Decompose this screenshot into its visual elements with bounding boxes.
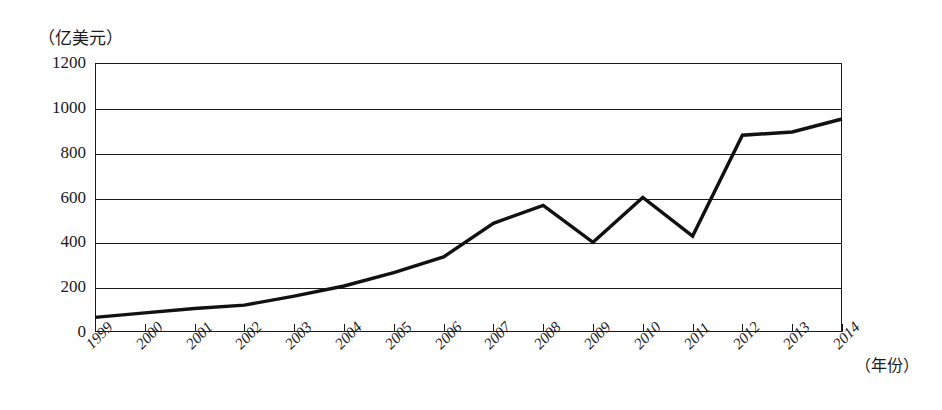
y-tick-label: 1200 (0, 53, 86, 73)
gridline (96, 288, 841, 289)
gridline (96, 199, 841, 200)
line-chart-figure: （亿美元） 020040060080010001200 199920002001… (0, 0, 942, 410)
y-tick-label: 600 (0, 188, 86, 208)
gridline (96, 154, 841, 155)
y-tick-label: 800 (0, 143, 86, 163)
y-tick-label: 1000 (0, 98, 86, 118)
plot-area (95, 63, 842, 332)
x-tick-mark (842, 324, 843, 332)
gridline (96, 109, 841, 110)
x-axis-unit-label: （年份） (855, 352, 919, 376)
gridline (96, 243, 841, 244)
y-tick-label: 200 (0, 277, 86, 297)
y-tick-label: 0 (0, 322, 86, 342)
y-tick-label: 400 (0, 232, 86, 252)
y-axis-tick-labels: 020040060080010001200 (0, 0, 86, 410)
